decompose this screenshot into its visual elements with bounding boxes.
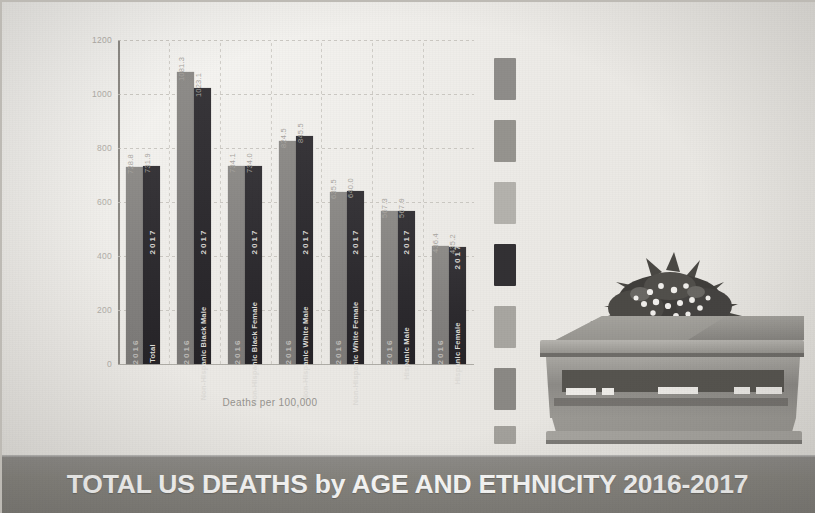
category-separator xyxy=(220,40,221,364)
category-label: Hispanic Male xyxy=(402,327,411,380)
bar-series-label: 2017 xyxy=(453,243,462,269)
bar-2017-hispanic-male[interactable]: 567.92017Hispanic Male xyxy=(398,211,415,364)
bar-series-label: 2016 xyxy=(436,339,445,365)
bar-2016-non-hispanic-black-female[interactable]: 734.12016 xyxy=(228,166,245,364)
page-top-edge xyxy=(0,0,815,2)
bar-value-label: 635.5 xyxy=(329,180,338,200)
bar-2016-non-hispanic-white-female[interactable]: 635.52016 xyxy=(330,192,347,364)
y-axis-tick-label: 0 xyxy=(107,359,112,369)
gridline xyxy=(118,94,474,95)
bar-2016-hispanic-female[interactable]: 436.42016 xyxy=(432,246,449,364)
y-axis-tick-label: 800 xyxy=(97,143,112,153)
bar-group: 567.32016567.92017Hispanic Male xyxy=(381,211,415,364)
category-separator xyxy=(423,40,424,364)
bar-value-label: 734.1 xyxy=(228,153,237,173)
bar-2017-non-hispanic-black-female[interactable]: 734.02017Non-Hispanic Black Female xyxy=(245,166,262,364)
bar-2016-total[interactable]: 728.82016 xyxy=(126,167,143,364)
bar-2017-non-hispanic-white-female[interactable]: 640.02017Non-Hispanic White Female xyxy=(347,191,364,364)
bar-group: 728.82016731.92017Total xyxy=(126,166,160,364)
x-axis-label: Deaths per 100,000 xyxy=(60,397,480,408)
bar-2016-hispanic-male[interactable]: 567.32016 xyxy=(381,211,398,364)
bar-value-label: 1081.3 xyxy=(177,57,186,81)
banner-top-edge xyxy=(0,455,815,457)
category-separator xyxy=(372,40,373,364)
bar-value-label: 436.4 xyxy=(431,233,440,253)
bar-series-label: 2017 xyxy=(147,229,156,255)
category-label: Non-Hispanic Black Female xyxy=(249,302,258,405)
bar-group: 1081.320161023.12017Non-Hispanic Black M… xyxy=(177,72,211,364)
bar-series-label: 2017 xyxy=(198,229,207,255)
bar-series-label: 2016 xyxy=(130,339,139,365)
bar-value-label: 824.5 xyxy=(279,129,288,149)
bar-series-label: 2017 xyxy=(300,229,309,255)
page-title: TOTAL US DEATHS by AGE AND ETHNICITY 201… xyxy=(67,469,748,500)
category-label: Hispanic Female xyxy=(453,322,462,384)
casket-illustration xyxy=(528,248,810,448)
bar-value-label: 567.9 xyxy=(397,198,406,218)
bar-2017-hispanic-female[interactable]: 435.22017Hispanic Female xyxy=(449,247,466,365)
y-axis-tick-label: 400 xyxy=(97,251,112,261)
category-separator xyxy=(321,40,322,364)
flower-spray-icon xyxy=(590,252,750,326)
bar-value-label: 567.3 xyxy=(380,198,389,218)
bar-chart: 020040060080010001200 728.82016731.92017… xyxy=(60,22,480,442)
category-label: Non-Hispanic White Female xyxy=(351,302,360,406)
bar-2017-non-hispanic-white-male[interactable]: 845.52017Non-Hispanic White Male xyxy=(296,136,313,364)
page-left-edge xyxy=(0,0,2,513)
bar-group: 436.42016435.22017Hispanic Female xyxy=(432,246,466,364)
category-label: Non-Hispanic White Male xyxy=(300,306,309,400)
bar-2016-non-hispanic-black-male[interactable]: 1081.32016 xyxy=(177,72,194,364)
bar-group: 635.52016640.02017Non-Hispanic White Fem… xyxy=(330,191,364,364)
category-label: Non-Hispanic Black Male xyxy=(198,307,207,401)
gridline xyxy=(118,40,474,41)
plot-area: 020040060080010001200 728.82016731.92017… xyxy=(118,40,474,364)
bar-series-label: 2016 xyxy=(232,339,241,365)
scanned-page: 020040060080010001200 728.82016731.92017… xyxy=(0,0,815,513)
bar-series-label: 2017 xyxy=(249,229,258,255)
bar-value-label: 728.8 xyxy=(126,154,135,174)
divider-dash xyxy=(494,120,516,162)
divider-dash xyxy=(494,306,516,348)
bar-series-label: 2017 xyxy=(351,229,360,255)
bar-series-label: 2017 xyxy=(402,229,411,255)
divider-dash xyxy=(494,244,516,286)
bar-group: 824.52016845.52017Non-Hispanic White Mal… xyxy=(279,136,313,364)
bar-2017-non-hispanic-black-male[interactable]: 1023.12017Non-Hispanic Black Male xyxy=(194,88,211,364)
category-separator xyxy=(271,40,272,364)
bar-2016-non-hispanic-white-male[interactable]: 824.52016 xyxy=(279,141,296,364)
y-axis-tick-label: 1000 xyxy=(92,89,112,99)
divider-dash xyxy=(494,182,516,224)
divider-dash xyxy=(494,58,516,100)
title-banner: TOTAL US DEATHS by AGE AND ETHNICITY 201… xyxy=(0,455,815,513)
dashed-vertical-divider xyxy=(494,58,516,444)
bar-2017-total[interactable]: 731.92017Total xyxy=(143,166,160,364)
y-axis-tick-label: 600 xyxy=(97,197,112,207)
category-label: Total xyxy=(147,344,156,362)
y-axis-tick-label: 200 xyxy=(97,305,112,315)
bar-value-label: 845.5 xyxy=(296,123,305,143)
category-separator xyxy=(169,40,170,364)
divider-dash xyxy=(494,426,516,444)
bar-series-label: 2016 xyxy=(283,339,292,365)
bar-series-label: 2016 xyxy=(334,339,343,365)
y-axis-tick-label: 1200 xyxy=(92,35,112,45)
divider-dash xyxy=(494,368,516,410)
bar-series-label: 2016 xyxy=(385,339,394,365)
gridline xyxy=(118,364,474,365)
bar-series-label: 2016 xyxy=(181,339,190,365)
bar-value-label: 731.9 xyxy=(143,154,152,174)
bar-group: 734.12016734.02017Non-Hispanic Black Fem… xyxy=(228,166,262,364)
bar-value-label: 640.0 xyxy=(346,178,355,198)
bar-value-label: 734.0 xyxy=(245,153,254,173)
bar-value-label: 1023.1 xyxy=(194,73,203,97)
